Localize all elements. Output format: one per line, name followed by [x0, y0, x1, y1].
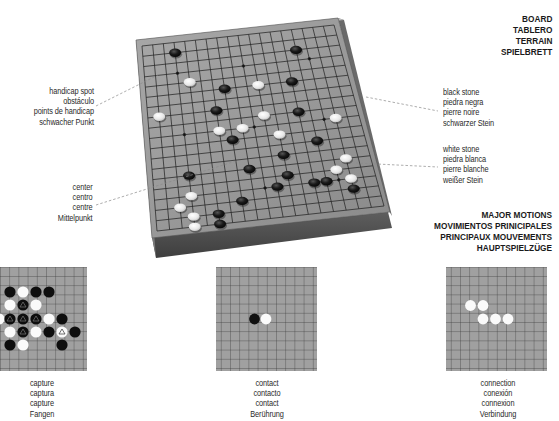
contact-diagram	[216, 267, 317, 371]
white-stone	[340, 154, 352, 162]
white-stone	[503, 314, 514, 325]
caption-fr: capture	[15, 399, 69, 409]
white-stone	[478, 300, 489, 311]
black-stone	[293, 108, 305, 116]
caption-es: captura	[15, 389, 69, 399]
callout-text-es: piedra blanca	[443, 155, 488, 165]
black-stone	[249, 314, 260, 325]
callout-text-de: schwarzer Stein	[443, 119, 494, 129]
black-stone	[210, 106, 222, 114]
motions-heading-es: MOVIMIENTOS PRINICIPALES	[434, 220, 552, 231]
white-stone	[30, 326, 41, 337]
white-stone	[185, 192, 197, 200]
board-heading: BOARD TABLERO TERRAIN SPIELBRETT	[501, 13, 552, 57]
caption-fr: contact	[240, 399, 294, 409]
black-stone	[43, 326, 54, 337]
black-stone	[169, 49, 181, 57]
black-stone	[282, 171, 294, 179]
black-stone	[56, 313, 67, 324]
white-stone	[17, 286, 28, 297]
black-stone	[243, 165, 255, 173]
black-stone	[236, 197, 248, 205]
connection-diagram	[446, 267, 547, 371]
black-stone	[183, 171, 195, 179]
white-stone	[174, 204, 186, 212]
white-stone	[189, 223, 201, 231]
callout-text-fr: points de handicap	[34, 107, 94, 117]
capture-caption: capture captura capture Fangen	[15, 379, 69, 420]
black-stone	[17, 313, 28, 324]
black-stone	[321, 177, 333, 185]
caption-de: Verbindung	[469, 410, 527, 420]
white-stone	[261, 314, 272, 325]
white-stone	[465, 300, 476, 311]
black-stone	[30, 286, 41, 297]
callout-text-en: center	[57, 183, 92, 193]
white-stone	[30, 299, 41, 310]
white-stone	[4, 326, 15, 337]
contact-caption: contact contacto contact Berührung	[240, 379, 294, 420]
black-stone	[17, 326, 28, 337]
black-stone	[311, 137, 323, 145]
white-stone	[4, 299, 15, 310]
motions-heading: MAJOR MOTIONS MOVIMIENTOS PRINICIPALES P…	[434, 209, 552, 253]
black-stone	[17, 299, 28, 310]
caption-en: capture	[15, 379, 69, 389]
black-stone	[43, 286, 54, 297]
black-stone	[56, 339, 67, 350]
white-stone	[258, 111, 270, 119]
black-stone	[271, 182, 283, 190]
callout-text-fr: centre	[57, 203, 92, 213]
callout-text-en: white stone	[443, 145, 488, 155]
black-stone	[214, 220, 226, 228]
callout-text-es: obstáculo	[34, 97, 94, 107]
white-stone	[17, 339, 28, 350]
caption-en: connection	[469, 379, 527, 389]
callout-center: center centro centre Mittelpunkt	[57, 183, 92, 224]
white-stone	[330, 166, 342, 174]
callout-text-es: centro	[57, 193, 92, 203]
black-stone	[348, 184, 360, 192]
caption-de: Fangen	[15, 410, 69, 420]
caption-es: contacto	[240, 389, 294, 399]
callout-handicap-spot: handicap spot obstáculo points de handic…	[34, 87, 94, 128]
callout-text-fr: pierre blanche	[443, 165, 488, 175]
board-heading-fr: TERRAIN	[501, 35, 552, 46]
white-stone	[490, 314, 501, 325]
callout-text-es: piedra negra	[443, 98, 494, 108]
caption-de: Berührung	[240, 410, 294, 420]
callout-text-en: handicap spot	[34, 87, 94, 97]
white-stone	[478, 314, 489, 325]
white-stone	[345, 174, 357, 182]
motions-heading-en: MAJOR MOTIONS	[434, 209, 552, 220]
black-stone	[290, 46, 302, 54]
board-heading-en: BOARD	[501, 13, 552, 24]
callout-black-stone: black stone piedra negra pierre noire sc…	[443, 88, 494, 129]
black-stone	[4, 313, 15, 324]
black-stone	[308, 178, 320, 186]
board-heading-es: TABLERO	[501, 24, 552, 35]
white-stone	[153, 112, 165, 120]
board-heading-de: SPIELBRETT	[501, 46, 552, 57]
motions-heading-de: HAUPTSPIELZÜGE	[434, 242, 552, 253]
callout-text-en: black stone	[443, 88, 494, 98]
black-stone	[213, 210, 225, 218]
black-stone	[30, 313, 41, 324]
caption-es: conexión	[469, 389, 527, 399]
callout-text-de: Mittelpunkt	[57, 214, 92, 224]
caption-fr: connexion	[469, 399, 527, 409]
caption-en: contact	[240, 379, 294, 389]
black-stone	[4, 339, 15, 350]
capture-diagram	[0, 267, 87, 371]
black-stone	[278, 151, 290, 159]
white-stone	[237, 124, 249, 132]
white-stone	[274, 130, 286, 138]
black-stone	[219, 85, 231, 93]
white-stone	[330, 114, 342, 122]
leader-black-stone	[366, 97, 438, 111]
white-stone	[213, 127, 225, 135]
callout-text-de: weißer Stein	[443, 176, 488, 186]
black-stone	[4, 286, 15, 297]
callout-white-stone: white stone piedra blanca pierre blanche…	[443, 145, 488, 186]
white-stone	[184, 78, 196, 86]
